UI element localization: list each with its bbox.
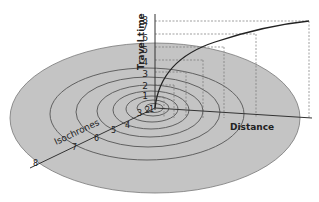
travel-time-label: Travel time [136,13,146,70]
iso-tick-6: 6 [94,134,99,143]
iso-tick-5: 5 [111,126,116,135]
isochrone-diagram: 1 2 3 4 5 6 7 8 Travel time Distance Iso… [0,0,319,202]
distance-label: Distance [230,122,274,132]
iso-tick-8: 8 [33,159,38,168]
y-tick-1: 1 [142,91,148,101]
iso-tick-4: 4 [125,121,130,130]
y-tick-2: 2 [142,81,148,91]
iso-tick-3: 3 [137,109,142,118]
iso-tick-2: 2 [145,106,150,115]
iso-tick-7: 7 [72,143,77,152]
